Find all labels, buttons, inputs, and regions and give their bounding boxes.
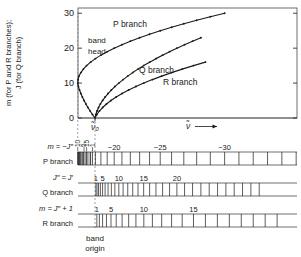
r-branch-scale-number: 15 [189, 205, 197, 214]
p-branch-data-point [83, 100, 85, 102]
q-branch-data-point [176, 47, 178, 49]
q-branch-data-point [169, 51, 171, 53]
p-branch-data-point [139, 37, 141, 39]
p-branch-data-point [129, 40, 131, 42]
p-branch-data-point [87, 107, 89, 109]
p-branch-data-point [77, 82, 79, 84]
q-branch-scale-number: 1 [94, 174, 98, 183]
q-branch-data-point [149, 61, 151, 63]
r-branch-data-point [96, 114, 98, 116]
x-axis-arrow-head [213, 125, 218, 129]
q-branch-data-point [98, 107, 100, 109]
p-branch-data-point [86, 65, 88, 67]
p-branch-data-point [81, 96, 83, 98]
q-branch-label: Q branch [139, 65, 174, 75]
p-branch-data-point [209, 16, 211, 18]
r-branch-row-label: m = J″ + 1 [39, 204, 73, 213]
q-branch-scale-number: 5 [100, 174, 104, 183]
p-branch-data-point [80, 72, 82, 74]
p-branch-data-point [82, 68, 84, 70]
p-branch-data-point [106, 51, 108, 53]
r-branch-data-point [204, 61, 206, 63]
q-branch-data-point [127, 75, 129, 77]
p-branch-data-point [121, 44, 123, 46]
y-tick-label-10: 10 [64, 78, 74, 88]
r-branch-scale-number: 1 [95, 205, 99, 214]
p-branch-label: P branch [113, 19, 147, 29]
r-branch-scale-number: 10 [140, 205, 148, 214]
p-branch-data-point [92, 114, 94, 116]
q-branch-data-point [99, 103, 101, 105]
q-branch-name-label: Q branch [42, 188, 73, 197]
p-branch-name-label: P branch [43, 157, 73, 166]
y-axis-label-line2: J (for Q branch) [14, 36, 23, 89]
q-branch-scale-number: 10 [115, 174, 123, 183]
p-branch-data-point [113, 47, 115, 49]
y-tick-label-30: 30 [64, 8, 74, 18]
p-branch-data-point [90, 61, 92, 63]
q-branch-scale-number: 15 [139, 174, 147, 183]
band-origin-tick-label: ν̃₀ [90, 121, 99, 132]
r-branch-data-point [193, 65, 195, 67]
q-branch-data-point [200, 37, 202, 39]
p-branch-data-point [224, 12, 226, 14]
p-branch-data-point [78, 75, 80, 77]
p-branch-row-label: m = −J″ [47, 142, 73, 151]
x-axis-label: ν̃ [185, 120, 191, 131]
p-branch-head-number: 1 [89, 143, 96, 147]
q-branch-data-point [107, 93, 109, 95]
p-branch-data-point [183, 23, 185, 25]
fortrat-diagram-figure: 0102030m (for P and R branches);J (for Q… [0, 0, 301, 257]
p-branch-data-point [79, 89, 81, 91]
p-branch-scale-number: −20 [108, 143, 121, 152]
q-branch-data-point [102, 100, 104, 102]
r-branch-data-point [181, 68, 183, 70]
figure-canvas: 0102030m (for P and R branches);J (for Q… [0, 0, 301, 257]
q-branch-data-point [118, 82, 120, 84]
p-branch-data-point [89, 110, 91, 112]
p-branch-data-point [85, 103, 87, 105]
r-branch-data-point [128, 89, 130, 91]
q-branch-scale-number: 20 [173, 174, 181, 183]
r-branch-data-point [98, 110, 100, 112]
q-branch-data-point [114, 86, 116, 88]
q-branch-data-point [155, 58, 157, 60]
p-branch-data-point [94, 58, 96, 60]
p-branch-data-point [196, 19, 198, 21]
band-origin-caption-line2: origin [85, 244, 105, 253]
r-branch-label: R branch [163, 77, 198, 87]
q-branch-data-point [192, 40, 194, 42]
q-branch-data-point [162, 54, 164, 56]
r-branch-data-point [106, 103, 108, 105]
r-branch-data-point [115, 96, 117, 98]
y-tick-label-20: 20 [64, 43, 74, 53]
p-branch-data-point [77, 86, 79, 88]
r-branch-data-point [121, 93, 123, 95]
p-branch-data-point [159, 30, 161, 32]
r-branch-data-point [102, 107, 104, 109]
q-branch-data-point [132, 72, 134, 74]
r-branch-name-label: R branch [43, 219, 73, 228]
q-branch-data-point [110, 89, 112, 91]
p-branch-data-point [80, 93, 82, 95]
p-branch-scale-number: −25 [154, 143, 167, 152]
y-tick-label-0: 0 [69, 113, 74, 123]
r-branch-data-point [143, 82, 145, 84]
q-branch-data-point [96, 110, 98, 112]
r-branch-data-point [151, 79, 153, 81]
band-origin-caption-line1: band [86, 234, 104, 243]
band-head-label-line2: head [88, 47, 106, 56]
p-branch-data-point [171, 26, 173, 28]
r-branch-data-point [135, 86, 137, 88]
q-branch-row-label: J″ = J′ [52, 173, 74, 182]
q-branch-data-point [184, 44, 186, 46]
q-branch-data-point [104, 96, 106, 98]
q-branch-data-point [122, 79, 124, 81]
p-branch-data-point [77, 79, 79, 81]
y-axis-label-line1: m (for P and R branches); [4, 20, 13, 106]
plot-frame [78, 8, 297, 118]
p-branch-scale-number: −30 [218, 143, 231, 152]
p-branch-data-point [149, 33, 151, 35]
r-branch-scale-number: 5 [109, 205, 113, 214]
r-branch-data-point [110, 100, 112, 102]
